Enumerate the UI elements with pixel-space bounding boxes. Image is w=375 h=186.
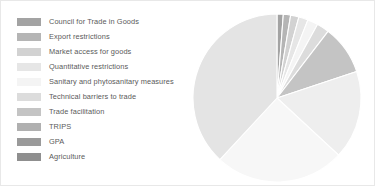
legend-color-swatch (17, 138, 41, 146)
legend-item-label: Council for Trade in Goods (49, 17, 139, 26)
chart-legend: Council for Trade in GoodsExport restric… (17, 14, 192, 164)
legend-item-label: TRIPS (49, 122, 71, 131)
legend-item[interactable]: Quantitative restrictions (17, 59, 192, 74)
legend-color-swatch (17, 18, 41, 26)
legend-item[interactable]: Sanitary and phytosanitary measures (17, 74, 192, 89)
legend-item[interactable]: Technical barriers to trade (17, 89, 192, 104)
legend-item[interactable]: Market access for goods (17, 44, 192, 59)
legend-color-swatch (17, 33, 41, 41)
legend-item-label: Export restrictions (49, 32, 110, 41)
legend-item-label: Sanitary and phytosanitary measures (49, 77, 174, 86)
legend-item[interactable]: Agriculture (17, 149, 192, 164)
legend-color-swatch (17, 78, 41, 86)
legend-item-label: Quantitative restrictions (49, 62, 128, 71)
legend-color-swatch (17, 63, 41, 71)
legend-color-swatch (17, 93, 41, 101)
legend-item-label: Trade facilitation (49, 107, 104, 116)
legend-item[interactable]: Trade facilitation (17, 104, 192, 119)
legend-item[interactable]: Export restrictions (17, 29, 192, 44)
legend-item[interactable]: GPA (17, 134, 192, 149)
legend-color-swatch (17, 123, 41, 131)
legend-item-label: GPA (49, 137, 64, 146)
legend-item[interactable]: Council for Trade in Goods (17, 14, 192, 29)
pie-chart-svg (191, 7, 371, 183)
legend-color-swatch (17, 48, 41, 56)
chart-container: Council for Trade in GoodsExport restric… (0, 0, 375, 186)
legend-color-swatch (17, 153, 41, 161)
legend-item-label: Agriculture (49, 152, 85, 161)
pie-chart (191, 7, 371, 183)
legend-item-label: Technical barriers to trade (49, 92, 136, 101)
legend-item[interactable]: TRIPS (17, 119, 192, 134)
legend-color-swatch (17, 108, 41, 116)
legend-item-label: Market access for goods (49, 47, 131, 56)
